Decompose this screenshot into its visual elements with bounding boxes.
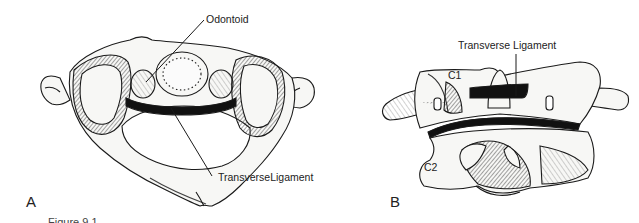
c1-label: C1 [448,70,461,81]
panel-b-letter: B [390,194,400,209]
panel-b-c1-c2-drawing [383,62,629,195]
figure-caption: Figure 9.1 [48,217,98,223]
odontoid-label: Odontoid [206,14,249,25]
panel-a-letter: A [26,194,36,209]
c2-label: C2 [424,162,437,173]
transverse-ligament-label-a: TransverseLigament [218,172,313,183]
transverse-ligament-label-b: Transverse Ligament [458,40,556,51]
vertebra-illustration [0,0,639,223]
